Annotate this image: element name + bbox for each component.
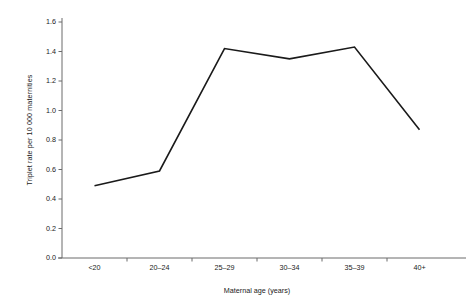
x-axis-title: Maternal age (years)	[62, 286, 452, 296]
y-axis-ticks	[59, 22, 63, 258]
x-tick-label: 25–29	[190, 263, 260, 273]
x-tick-label: <20	[60, 263, 130, 273]
x-tick-label: 35–39	[320, 263, 390, 273]
x-tick-label: 30–34	[255, 263, 325, 273]
x-axis-tick-labels: <2020–2425–2930–3435–3940+	[62, 263, 452, 277]
x-axis-ticks	[127, 258, 387, 262]
x-tick-label: 40+	[385, 263, 455, 273]
x-tick-label: 20–24	[125, 263, 195, 273]
plot-area	[0, 0, 468, 307]
data-series-line	[95, 47, 420, 186]
chart-figure: Triplet rate per 10 000 maternities 0.00…	[0, 0, 468, 307]
